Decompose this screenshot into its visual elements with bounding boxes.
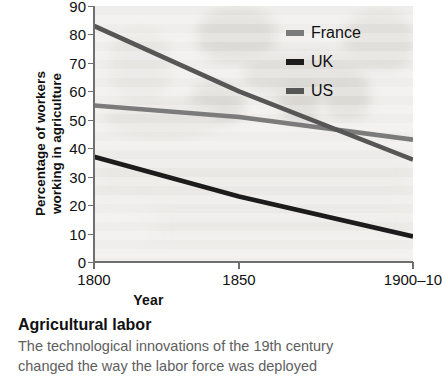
y-tick-mark (88, 148, 94, 149)
figure-caption: Agricultural labor The technological inn… (18, 316, 413, 376)
x-axis-title-label: Year (133, 292, 163, 308)
series-lines (94, 6, 413, 262)
legend-item-uk: UK (286, 51, 361, 73)
x-axis-line (93, 261, 413, 263)
y-tick-mark (88, 34, 94, 35)
legend-swatch-icon (286, 30, 304, 36)
series-line-france (94, 106, 413, 140)
y-tick-mark (88, 6, 94, 7)
legend-label: UK (311, 54, 333, 70)
y-axis-title-line-1: Percentage of workers (33, 29, 49, 259)
legend-item-france: France (286, 22, 361, 44)
y-tick-label: 70 (69, 56, 86, 71)
x-tick-label: 1850 (222, 272, 255, 287)
y-axis-title-line-2: working in agriculture (49, 29, 65, 259)
legend-swatch-icon (286, 88, 304, 94)
caption-body-line-1: The technological innovations of the 19t… (18, 337, 413, 356)
y-tick-mark (88, 234, 94, 235)
x-tick-mark (238, 262, 240, 269)
y-tick-label: 0 (78, 255, 86, 270)
legend-label: US (311, 83, 333, 99)
x-tick-label: 1900–10 (384, 272, 442, 287)
y-axis-title: Percentage of workers working in agricul… (33, 29, 64, 259)
x-tick-label: 1800 (77, 272, 110, 287)
series-line-uk (94, 157, 413, 237)
y-tick-label: 40 (69, 141, 86, 156)
y-tick-label: 50 (69, 113, 86, 128)
y-tick-mark (88, 177, 94, 178)
y-tick-mark (88, 120, 94, 121)
y-tick-label: 30 (69, 170, 86, 185)
chart-legend: FranceUKUS (286, 22, 361, 109)
y-tick-label: 90 (69, 0, 86, 14)
chart-plot-wrapper: 0102030405060708090 180018501900–10 Perc… (0, 0, 413, 300)
x-tick-mark (412, 262, 414, 269)
caption-title: Agricultural labor (18, 316, 413, 334)
series-line-us (94, 26, 413, 160)
y-tick-mark (88, 205, 94, 206)
y-tick-label: 80 (69, 27, 86, 42)
y-tick-label: 60 (69, 84, 86, 99)
y-tick-mark (88, 63, 94, 64)
y-tick-mark (88, 91, 94, 92)
y-tick-label: 20 (69, 198, 86, 213)
x-tick-mark (93, 262, 95, 269)
y-tick-label: 10 (69, 227, 86, 242)
legend-item-us: US (286, 80, 361, 102)
legend-label: France (311, 25, 361, 41)
x-axis-title: Year (0, 292, 413, 308)
legend-swatch-icon (286, 59, 304, 65)
plot-area (94, 6, 413, 262)
caption-body-line-2: changed the way the labor force was depl… (18, 357, 413, 376)
